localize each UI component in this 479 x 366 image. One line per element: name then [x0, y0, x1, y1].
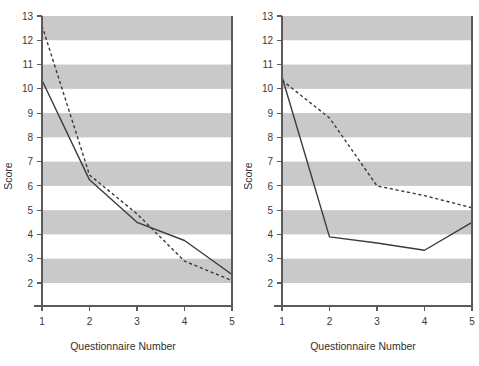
- y-tick-label: 10: [262, 83, 274, 94]
- y-tick-label: 7: [27, 156, 33, 167]
- y-tick-label: 2: [27, 278, 33, 289]
- y-tick-label: 9: [267, 108, 273, 119]
- left-plot-background: [36, 16, 233, 306]
- right-x-axis-title: Questionnaire Number: [310, 340, 416, 352]
- x-tick-label: 1: [39, 316, 45, 327]
- x-tick-label: 3: [134, 316, 140, 327]
- right-x-tick-labels: 12345: [279, 306, 475, 327]
- x-tick-label: 3: [374, 316, 380, 327]
- y-tick-label: 3: [27, 253, 33, 264]
- two-panel-line-chart-figure: 2345678910111213 12345 Questionnaire Num…: [0, 0, 479, 366]
- y-tick-label: 4: [27, 229, 33, 240]
- background-band: [42, 259, 232, 283]
- y-tick-label: 6: [27, 181, 33, 192]
- left-y-axis-title: Score: [2, 162, 14, 190]
- background-band: [42, 162, 232, 186]
- y-tick-label: 9: [27, 108, 33, 119]
- x-tick-label: 5: [229, 316, 235, 327]
- x-tick-label: 4: [182, 316, 188, 327]
- y-tick-label: 5: [27, 205, 33, 216]
- y-tick-label: 12: [22, 35, 34, 46]
- y-tick-label: 8: [267, 132, 273, 143]
- y-tick-label: 5: [267, 205, 273, 216]
- right-panel-svg: 2345678910111213 12345 Questionnaire Num…: [240, 0, 479, 366]
- y-tick-label: 3: [267, 253, 273, 264]
- y-tick-label: 7: [267, 156, 273, 167]
- background-band: [42, 65, 232, 89]
- y-tick-label: 2: [267, 278, 273, 289]
- x-tick-label: 1: [279, 316, 285, 327]
- right-y-axis-title: Score: [242, 162, 254, 190]
- y-tick-label: 4: [267, 229, 273, 240]
- background-band: [282, 259, 472, 283]
- y-tick-label: 13: [262, 11, 274, 22]
- x-tick-label: 2: [327, 316, 333, 327]
- chart-panel-right: 2345678910111213 12345 Questionnaire Num…: [240, 0, 479, 366]
- chart-panel-left: 2345678910111213 12345 Questionnaire Num…: [0, 0, 239, 366]
- y-tick-label: 13: [22, 11, 34, 22]
- x-tick-label: 2: [87, 316, 93, 327]
- y-tick-label: 10: [22, 83, 34, 94]
- left-x-tick-labels: 12345: [39, 306, 235, 327]
- y-tick-label: 8: [27, 132, 33, 143]
- y-tick-label: 11: [263, 59, 274, 70]
- background-band: [42, 16, 232, 40]
- background-band: [282, 16, 472, 40]
- x-tick-label: 5: [469, 316, 475, 327]
- y-tick-label: 6: [267, 181, 273, 192]
- background-band: [282, 65, 472, 89]
- background-band: [282, 210, 472, 234]
- x-tick-label: 4: [422, 316, 428, 327]
- background-band: [282, 113, 472, 137]
- y-tick-label: 12: [262, 35, 274, 46]
- left-panel-svg: 2345678910111213 12345 Questionnaire Num…: [0, 0, 239, 366]
- y-tick-label: 11: [23, 59, 34, 70]
- left-x-axis-title: Questionnaire Number: [70, 340, 176, 352]
- right-plot-background: [276, 16, 473, 306]
